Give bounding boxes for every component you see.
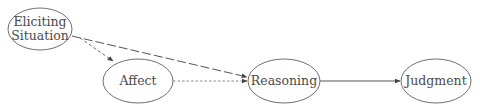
node-reasoning: Reasoning xyxy=(248,59,320,103)
node-eliciting-situation: Eliciting Situation xyxy=(8,8,72,50)
node-label: Reasoning xyxy=(251,73,317,88)
node-label: Affect xyxy=(118,73,156,88)
flow-diagram: Eliciting Situation Affect Reasoning Jud… xyxy=(0,0,480,109)
node-label-line2: Situation xyxy=(11,28,69,43)
node-label: Judgment xyxy=(403,73,466,88)
node-judgment: Judgment xyxy=(401,59,471,103)
node-label-line1: Eliciting xyxy=(13,14,66,29)
node-affect: Affect xyxy=(103,59,173,103)
